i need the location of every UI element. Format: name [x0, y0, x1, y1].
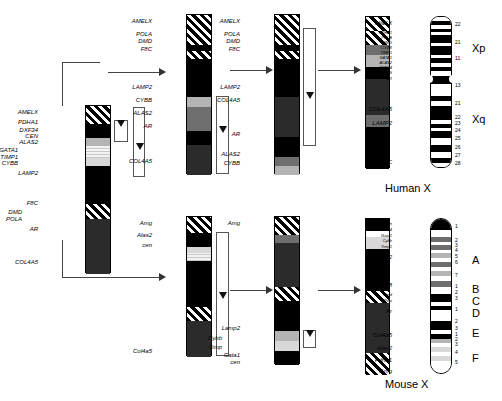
- gene-label: Dmd: [332, 293, 392, 297]
- chromosome-arm-label: A: [472, 254, 479, 266]
- band-hatch: [187, 307, 211, 321]
- ideogram-human-x: [430, 16, 452, 168]
- centromere-notch-right: [449, 75, 453, 83]
- iband: [431, 106, 451, 120]
- ideogram-band-number: 25: [455, 136, 461, 141]
- panel-caption: Human X: [385, 182, 431, 194]
- inversion-arrow-icon: [136, 143, 144, 150]
- gene-label: LAMP2: [92, 84, 152, 90]
- gene-label: LAMP2: [332, 120, 392, 126]
- gene-label: Col4a5: [332, 332, 392, 338]
- connector-line: [62, 240, 63, 278]
- gene-label: AMELX: [92, 18, 152, 24]
- gene-label: Lamp2: [180, 325, 240, 331]
- ideogram-band-number: 7: [455, 273, 458, 278]
- gene-label: Alas2: [92, 232, 152, 238]
- gene-label: COL4A5: [0, 259, 38, 265]
- gene-label: F8C: [180, 46, 240, 52]
- panel-caption: Mouse X: [385, 378, 428, 390]
- ideogram-band-number: 27: [455, 153, 461, 158]
- band-ltgrey: [275, 166, 299, 175]
- band-grey: [275, 235, 299, 243]
- gene-label: Cybb: [162, 335, 222, 341]
- chromosome-arm-label: C: [472, 295, 480, 307]
- gene-label: POLA: [180, 31, 240, 37]
- iband: [431, 321, 451, 330]
- gene-label: Lamp2: [332, 254, 392, 260]
- band-ltgrey: [275, 331, 299, 341]
- ideogram-body: [430, 218, 452, 374]
- band-ltgrey: [86, 138, 110, 146]
- iband: [431, 294, 451, 302]
- iband-centromere: [431, 76, 451, 84]
- gene-label: POLA: [92, 31, 152, 37]
- band-black: [86, 166, 110, 204]
- gene-label: DMD: [92, 38, 152, 44]
- band-grey: [187, 107, 211, 117]
- iband: [431, 230, 451, 237]
- gene-label: Timp: [162, 344, 222, 350]
- band-black: [187, 261, 211, 307]
- gene-label: AR: [180, 131, 240, 137]
- gene-label: Pdha1: [332, 357, 392, 363]
- connector-line: [62, 62, 100, 63]
- gene-label: cen: [92, 242, 152, 248]
- gene-label: DXF34: [332, 66, 392, 70]
- iband: [431, 46, 451, 55]
- band-hatch: [86, 204, 110, 219]
- gene-label: Cf-8: [332, 282, 392, 288]
- ideogram-band-number: 1: [455, 224, 458, 229]
- gene-label: AR: [0, 226, 38, 232]
- gene-label: COL4A5: [180, 97, 240, 103]
- iband: [431, 163, 451, 168]
- chromosome-arm-label: Xq: [472, 113, 485, 125]
- gene-label: F8C: [332, 159, 392, 165]
- connector-line: [62, 277, 160, 278]
- gene-label: F8C: [0, 200, 38, 206]
- band-hatch: [187, 51, 211, 59]
- iband: [431, 145, 451, 152]
- ideogram-band-number: 6: [455, 260, 458, 265]
- gene-label: Ar: [332, 308, 392, 314]
- gene-label: Gata1: [180, 352, 240, 358]
- gene-label: DMD: [0, 209, 22, 215]
- ideogram-band-number: 4: [455, 350, 458, 355]
- gene-label: AMELX: [332, 21, 392, 26]
- gene-label: Amg: [92, 220, 152, 226]
- iband: [431, 131, 451, 138]
- gene-label: AMELX: [180, 18, 240, 24]
- iband: [431, 310, 451, 321]
- ideogram-band-number: 3: [455, 342, 458, 347]
- ideogram-band-number: 24: [455, 128, 461, 133]
- gene-label: CYBB: [180, 160, 240, 166]
- gene-label: AR: [332, 77, 392, 81]
- chromosome-mouse-3: [274, 216, 300, 364]
- band-grey: [187, 117, 211, 131]
- ideogram-band-number: 1: [455, 307, 458, 312]
- ideogram-band-number: 22: [455, 22, 461, 27]
- gene-label: LAMP2: [0, 170, 38, 176]
- chromosome-arm-label: E: [472, 327, 479, 339]
- gene-label: LAMP2: [180, 84, 240, 90]
- gene-label: Timp1: [332, 245, 392, 249]
- gene-label: AR: [92, 123, 152, 129]
- gene-label: Col4a5: [92, 348, 152, 354]
- chromosome-arm-label: D: [472, 307, 480, 319]
- ideogram-body: [430, 16, 452, 168]
- connector-arrow-icon: [159, 273, 166, 281]
- iband: [431, 287, 451, 294]
- band-stripe: [187, 253, 211, 261]
- gene-label: AMELX: [0, 109, 38, 115]
- connector-line: [318, 290, 356, 291]
- gene-label: ALAS2: [0, 139, 38, 145]
- chromosome-arm-label: F: [472, 352, 479, 364]
- band-black: [187, 59, 211, 97]
- chromosome-arm-label: Xp: [472, 42, 485, 54]
- inversion-arrow-icon: [306, 92, 314, 99]
- band-hatch: [275, 217, 299, 235]
- band-dkgrey: [275, 97, 299, 137]
- connector-line: [230, 290, 268, 291]
- gene-label: Alas2: [332, 345, 392, 351]
- ideogram-band-number: 5: [455, 360, 458, 365]
- band-black: [275, 301, 299, 331]
